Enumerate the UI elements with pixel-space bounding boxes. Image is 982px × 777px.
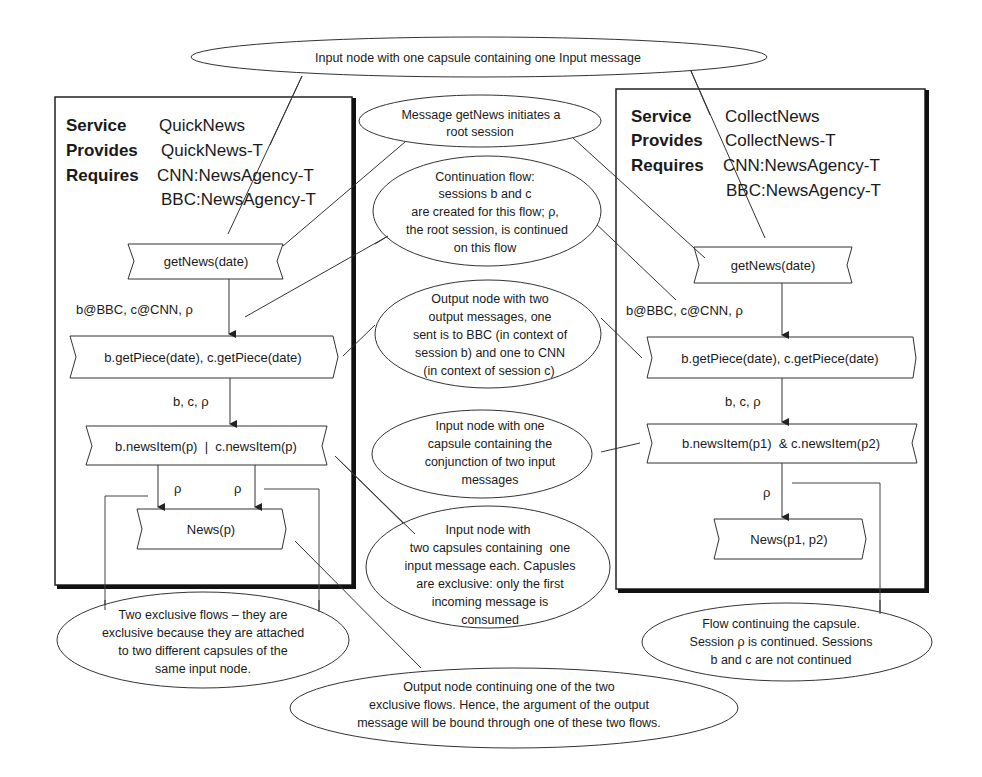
svg-text:exclusive because they are att: exclusive because they are attached [102,626,304,640]
left-requires-value-1: CNN:NewsAgency-T [157,166,314,185]
svg-text:Session ρ is continued. Sessio: Session ρ is continued. Sessions [690,635,873,649]
annotation-top-input-node: Input node with one capsule containing o… [315,51,641,65]
svg-text:on this flow: on this flow [454,241,518,255]
svg-text:consumed: consumed [461,613,519,627]
left-flow-label-2: b, c, ρ [173,394,209,409]
svg-text:message will be bound through: message will be bound through one of the… [357,716,661,730]
svg-text:Two exclusive flows – they are: Two exclusive flows – they are [119,608,288,622]
svg-text:capsule containing the: capsule containing the [428,437,552,451]
left-flow-label-rho-a: ρ [174,481,181,496]
left-newsitem-label: b.newsItem(p) | c.newsItem(p) [115,439,297,454]
svg-text:are exclusive: only the first: are exclusive: only the first [416,577,564,591]
left-requires-keyword: Requires [66,166,139,185]
svg-text:output messages, one: output messages, one [429,310,552,324]
left-getnews-label: getNews(date) [164,254,249,269]
svg-text:input message each. Capusles: input message each. Capusles [405,559,576,573]
right-service-name: CollectNews [725,107,819,126]
svg-text:sent is to BBC (in context of: sent is to BBC (in context of [413,328,568,342]
annotation-flow-continuing-capsule: Flow continuing the capsule. Session ρ i… [690,617,873,667]
left-getpiece-label: b.getPiece(date), c.getPiece(date) [104,350,301,365]
right-service-keyword: Service [631,107,692,126]
left-service-keyword: Service [66,116,127,135]
svg-text:incoming message is: incoming message is [432,595,549,609]
svg-text:(in context of session c): (in context of session c) [423,364,554,378]
right-flow-label-rho: ρ [763,485,770,500]
svg-text:session b) and one to CNN: session b) and one to CNN [415,346,565,360]
svg-text:b and c are not continued: b and c are not continued [710,653,851,667]
left-news-label: News(p) [187,522,235,537]
svg-text:conjunction of two input: conjunction of two input [425,455,556,469]
left-flow-label-rho-b: ρ [234,481,241,496]
svg-text:to two different capsules of t: to two different capsules of the [118,644,287,658]
left-provides-keyword: Provides [66,141,138,160]
right-requires-keyword: Requires [631,156,704,175]
svg-text:Input node with: Input node with [446,523,531,537]
right-flow-label-2: b, c, ρ [725,394,761,409]
svg-text:Flow continuing the capsule.: Flow continuing the capsule. [702,617,860,631]
right-newsitem-label: b.newsItem(p1) & c.newsItem(p2) [682,436,880,451]
diagram-canvas: Service QuickNews Provides QuickNews-T R… [0,0,982,777]
annotation-output-node-two: Output node with two output messages, on… [413,292,568,378]
right-getpiece-label: b.getPiece(date), c.getPiece(date) [681,351,878,366]
right-requires-value-1: CNN:NewsAgency-T [723,156,880,175]
right-flow-label-1: b@BBC, c@CNN, ρ [626,303,743,318]
svg-text:are created for this flow; ρ,: are created for this flow; ρ, [411,205,558,219]
right-provides-keyword: Provides [631,131,703,150]
svg-text:Output node with two: Output node with two [431,292,548,306]
svg-text:Message getNews initiates a: Message getNews initiates a [401,108,560,122]
svg-text:Input node with one: Input node with one [435,419,544,433]
svg-text:root session: root session [446,125,513,139]
left-flow-label-1: b@BBC, c@CNN, ρ [76,302,193,317]
svg-text:same input node.: same input node. [155,662,251,676]
left-service-name: QuickNews [159,116,245,135]
svg-text:sessions b and c: sessions b and c [438,187,531,201]
svg-text:the root session, is continue: the root session, is continued [406,223,568,237]
svg-text:Continuation flow:: Continuation flow: [435,170,534,184]
left-requires-value-2: BBC:NewsAgency-T [161,190,316,209]
svg-text:Output node continuing one of: Output node continuing one of the two [403,680,614,694]
right-requires-value-2: BBC:NewsAgency-T [726,181,881,200]
left-provides-value: QuickNews-T [161,141,263,160]
right-news-label: News(p1, p2) [750,532,827,547]
svg-text:messages: messages [462,473,519,487]
svg-text:two capsules containing one: two capsules containing one [410,541,571,555]
svg-text:exclusive flows. Hence, the ar: exclusive flows. Hence, the argument of … [369,698,650,712]
right-getnews-label: getNews(date) [731,258,816,273]
right-provides-value: CollectNews-T [725,131,836,150]
